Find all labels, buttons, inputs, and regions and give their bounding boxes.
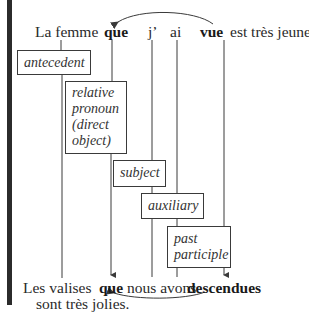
label-auxiliary: auxiliary — [141, 193, 204, 219]
word-que-top: que — [104, 24, 128, 40]
label-auxiliary-text: auxiliary — [148, 198, 199, 213]
label-relative-pronoun: relative pronoun (direct object) — [65, 81, 127, 154]
word-la-femme: La femme — [35, 24, 98, 40]
word-que-bottom: que — [99, 280, 123, 296]
label-relative-pronoun-line4: object) — [72, 133, 120, 149]
top-arc-arrow — [118, 12, 213, 24]
top-sentence: La femme que j’ ai vue est très jeune. — [0, 24, 309, 42]
word-j: j’ — [148, 24, 157, 40]
label-relative-pronoun-line1: relative — [72, 85, 120, 101]
word-est-tres-jeune: est très jeune. — [230, 24, 309, 40]
label-past-participle-line1: past — [174, 231, 224, 247]
label-relative-pronoun-line2: pronoun — [72, 101, 120, 117]
label-subject: subject — [113, 160, 166, 187]
label-antecedent: antecedent — [17, 50, 91, 75]
label-past-participle: past participle — [167, 226, 231, 268]
word-vue: vue — [200, 24, 223, 40]
bottom-sentence: Les valises que nous avons descendues so… — [0, 280, 309, 315]
word-ai: ai — [170, 24, 181, 40]
label-relative-pronoun-line3: (direct — [72, 117, 120, 133]
label-past-participle-line2: participle — [174, 247, 224, 263]
label-antecedent-text: antecedent — [24, 55, 85, 70]
bottom-sentence-line2: sont très jolies. — [36, 296, 129, 312]
connector-lines — [0, 0, 309, 315]
word-les-valises: Les valises — [23, 280, 91, 296]
label-subject-text: subject — [120, 165, 160, 180]
word-descendues: descendues — [187, 280, 261, 296]
word-nous-avons: nous avons — [127, 280, 196, 296]
